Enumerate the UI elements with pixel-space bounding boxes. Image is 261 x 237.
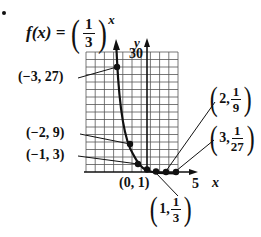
graph	[0, 0, 261, 237]
label-point-neg2: (−2, 9)	[26, 125, 64, 141]
x-tick-5: 5	[192, 176, 199, 192]
point-2	[163, 169, 169, 175]
point-3	[173, 169, 179, 175]
point-1	[153, 168, 159, 174]
point-0	[144, 166, 150, 172]
label-point-1-x: 1,	[159, 201, 170, 217]
point-neg1	[135, 161, 141, 167]
point-neg3	[114, 64, 120, 70]
label-point-2: ( 2, 1 9 )	[208, 82, 254, 116]
y-tick-30: 30	[129, 46, 143, 62]
label-point-2-x: 2,	[219, 91, 230, 107]
point-neg2	[127, 141, 133, 147]
label-point-neg1: (−1, 3)	[26, 147, 64, 163]
label-point-0: (0, 1)	[119, 175, 149, 191]
label-point-neg3: (−3, 27)	[18, 69, 63, 85]
label-point-1: ( 1, 1 3 )	[148, 192, 194, 226]
y-axis	[144, 38, 150, 172]
x-axis-label: x	[212, 175, 219, 191]
label-point-3-x: 3,	[219, 130, 230, 146]
label-point-3: ( 3, 1 27 )	[208, 121, 256, 155]
